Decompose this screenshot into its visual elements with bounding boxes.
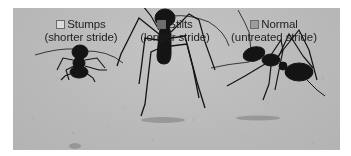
sand-texture: [32, 76, 325, 144]
ant-shadows: [69, 116, 280, 150]
legend-item-stumps: Stumps (shorter stride): [41, 18, 121, 44]
swatch-stilts-icon: [157, 20, 166, 29]
legend-sublabel: (untreated stride): [226, 31, 322, 44]
legend-label: Stumps: [67, 18, 105, 31]
legend-label: Normal: [261, 18, 297, 31]
ant-photo: Stumps (shorter stride) Stilts (longer s…: [13, 8, 340, 150]
swatch-normal-icon: [250, 20, 259, 29]
legend-sublabel: (shorter stride): [41, 31, 121, 44]
swatch-stumps-icon: [56, 20, 65, 29]
legend-item-stilts: Stilts (longer stride): [135, 18, 215, 44]
legend-sublabel: (longer stride): [135, 31, 215, 44]
legend: Stumps (shorter stride) Stilts (longer s…: [13, 18, 340, 58]
legend-item-normal: Normal (untreated stride): [226, 18, 322, 44]
legend-label: Stilts: [168, 18, 192, 31]
